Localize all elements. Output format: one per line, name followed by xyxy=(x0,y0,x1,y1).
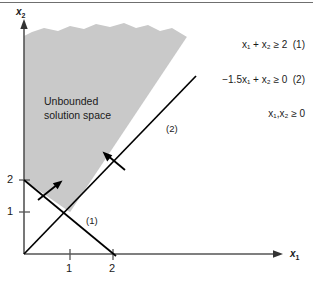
constraint-item-3: x₁,x₂ ≥ 0 xyxy=(222,108,305,120)
region-label-line2: solution space xyxy=(44,108,111,122)
x-tick-label-2: 2 xyxy=(109,262,115,275)
constraint-item-1: x₁ + x₂ ≥ 2 (1) xyxy=(222,39,305,51)
x-tick-label-1: 1 xyxy=(66,262,72,275)
x-axis xyxy=(24,250,283,257)
line-tag-1: (1) xyxy=(86,216,98,227)
constraint-list: x₁ + x₂ ≥ 2 (1) −1.5x₁ + x₂ ≥ 0 (2) x₁,x… xyxy=(222,16,305,143)
x-axis-label: x1 xyxy=(290,248,299,262)
constraint-item-2: −1.5x₁ + x₂ ≥ 0 (2) xyxy=(222,74,305,86)
line-tag-2: (2) xyxy=(166,124,178,135)
region-label-line1: Unbounded xyxy=(44,94,98,108)
figure-container: x2 x1 2 1 1 2 Unbounded solution space (… xyxy=(0,0,313,282)
direction-arrow-2 xyxy=(103,152,126,171)
y-axis-label: x2 xyxy=(16,6,25,20)
y-tick-label-1: 1 xyxy=(7,205,13,218)
y-tick-label-2: 2 xyxy=(7,173,13,186)
